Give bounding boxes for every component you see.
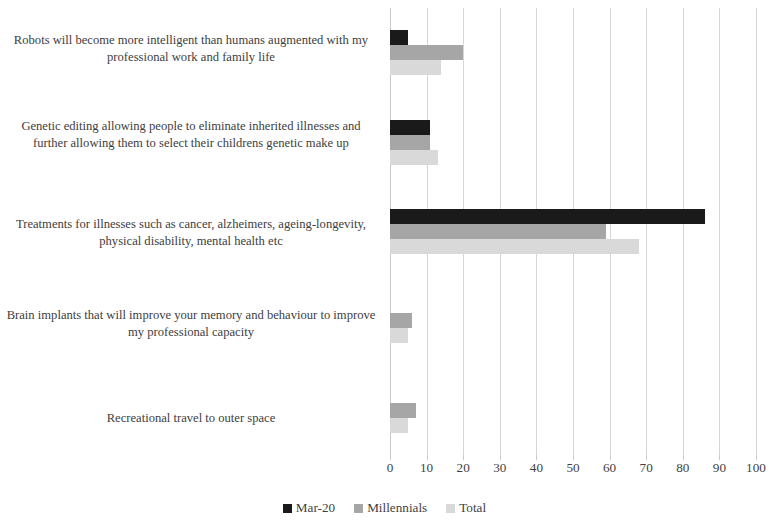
chart-legend: Mar-20MillennialsTotal [0, 500, 769, 516]
legend-swatch-icon [354, 504, 363, 513]
legend-label: Total [459, 500, 486, 516]
category-label: Recreational travel to outer space [6, 410, 376, 427]
bar [390, 239, 639, 254]
bar [390, 418, 408, 433]
bar [390, 30, 408, 45]
x-axis-tick-label: 10 [420, 460, 433, 476]
legend-label: Mar-20 [296, 500, 335, 516]
legend-label: Millennials [367, 500, 427, 516]
x-axis-tick-label: 60 [603, 460, 616, 476]
bar [390, 135, 430, 150]
x-axis-tick-label: 20 [457, 460, 470, 476]
x-axis-tick-label: 40 [530, 460, 543, 476]
legend-swatch-icon [446, 504, 455, 513]
bar [390, 224, 606, 239]
x-axis-tick-label: 100 [746, 460, 766, 476]
x-axis-tick-labels: 0102030405060708090100 [390, 460, 756, 480]
bar [390, 403, 416, 418]
gridline [719, 8, 720, 455]
legend-item[interactable]: Millennials [354, 500, 427, 516]
bar [390, 45, 463, 60]
bar [390, 150, 438, 165]
category-label-column: Robots will become more intelligent than… [0, 0, 384, 455]
x-axis-tick-label: 70 [640, 460, 653, 476]
bar-chart: Robots will become more intelligent than… [0, 0, 769, 529]
category-label: Genetic editing allowing people to elimi… [6, 118, 376, 151]
gridline [756, 8, 757, 455]
bar [390, 209, 705, 224]
category-label: Treatments for illnesses such as cancer,… [6, 216, 376, 249]
plot-area [390, 8, 756, 455]
legend-item[interactable]: Mar-20 [283, 500, 335, 516]
x-axis-tick-label: 90 [713, 460, 726, 476]
gridline [646, 8, 647, 455]
bar [390, 328, 408, 343]
legend-swatch-icon [283, 504, 292, 513]
category-label: Brain implants that will improve your me… [6, 307, 376, 340]
bar [390, 313, 412, 328]
legend-item[interactable]: Total [446, 500, 486, 516]
category-label: Robots will become more intelligent than… [6, 32, 376, 65]
x-axis-tick-label: 0 [387, 460, 394, 476]
x-axis-tick-label: 80 [676, 460, 689, 476]
x-axis-tick-label: 50 [566, 460, 579, 476]
gridline [683, 8, 684, 455]
x-axis-tick-label: 30 [493, 460, 506, 476]
bar [390, 60, 441, 75]
gridline [610, 8, 611, 455]
bar [390, 120, 430, 135]
